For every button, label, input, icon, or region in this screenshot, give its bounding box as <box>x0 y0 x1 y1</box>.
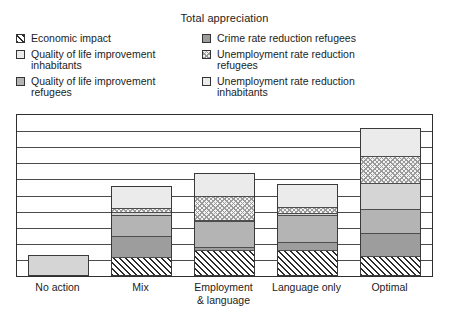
bar-segment <box>361 129 420 156</box>
bar-segment <box>278 251 337 275</box>
x-axis-label: Optimal <box>348 281 431 294</box>
legend-item-unemployment-reduction-refugees: Unemployment rate reduction refugees <box>202 49 434 72</box>
x-axis-label: Language only <box>265 281 348 294</box>
bar-segment <box>278 216 337 243</box>
bar-employment-language[interactable] <box>194 173 255 276</box>
x-axis-label: Employment & language <box>182 281 265 307</box>
legend-label-unemployment-reduction-refugees: Unemployment rate reduction refugees <box>217 49 355 72</box>
plot-area <box>16 114 433 277</box>
bar-segment <box>278 185 337 208</box>
legend-swatch-economic-impact <box>16 34 25 43</box>
chart-title: Total appreciation <box>0 12 449 24</box>
bar-segment <box>195 222 254 248</box>
legend-label-quality-of-life-inhabitants: Quality of life improvement inhabitants <box>31 49 155 72</box>
bar-segment <box>361 184 420 210</box>
legend-label-economic-impact: Economic impact <box>31 33 111 45</box>
legend-item-unemployment-reduction-inhabitants: Unemployment rate reduction inhabitants <box>202 76 434 99</box>
bar-no-action[interactable] <box>28 255 89 276</box>
legend-label-unemployment-reduction-inhabitants: Unemployment rate reduction inhabitants <box>217 76 355 99</box>
bar-mix[interactable] <box>111 186 172 276</box>
legend-column-left: Economic impact Quality of life improvem… <box>16 33 206 103</box>
bar-segment <box>112 216 171 236</box>
bar-segment <box>112 187 171 210</box>
bar-segment <box>195 251 254 275</box>
chart-legend: Economic impact Quality of life improvem… <box>16 33 434 105</box>
legend-swatch-unemployment-reduction-inhabitants <box>202 77 211 86</box>
legend-column-right: Crime rate reduction refugees Unemployme… <box>202 33 434 103</box>
legend-item-crime-rate-reduction-refugees: Crime rate reduction refugees <box>202 33 434 45</box>
legend-swatch-quality-of-life-refugees <box>16 77 25 86</box>
bar-language-only[interactable] <box>277 184 338 276</box>
bar-optimal[interactable] <box>360 128 421 276</box>
legend-label-crime-rate-reduction-refugees: Crime rate reduction refugees <box>217 33 356 45</box>
x-axis-labels: No actionMixEmployment & languageLanguag… <box>16 281 433 315</box>
bar-segment <box>361 234 420 257</box>
legend-item-quality-of-life-inhabitants: Quality of life improvement inhabitants <box>16 49 206 72</box>
legend-item-quality-of-life-refugees: Quality of life improvement refugees <box>16 76 206 99</box>
bar-segment <box>29 256 88 275</box>
x-axis-label: No action <box>16 281 99 294</box>
legend-swatch-unemployment-reduction-refugees <box>202 50 211 59</box>
bar-segment <box>278 243 337 252</box>
legend-swatch-quality-of-life-inhabitants <box>16 50 25 59</box>
legend-label-quality-of-life-refugees: Quality of life improvement refugees <box>31 76 155 99</box>
bar-segment <box>361 157 420 184</box>
legend-item-economic-impact: Economic impact <box>16 33 206 45</box>
bar-segment <box>112 258 171 275</box>
bar-segment <box>112 237 171 258</box>
x-axis-label: Mix <box>99 281 182 294</box>
legend-swatch-crime-rate-reduction-refugees <box>202 34 211 43</box>
bars-layer <box>17 115 432 276</box>
bar-segment <box>195 197 254 221</box>
bar-segment <box>361 257 420 275</box>
bar-segment <box>361 210 420 235</box>
bar-segment <box>195 174 254 198</box>
